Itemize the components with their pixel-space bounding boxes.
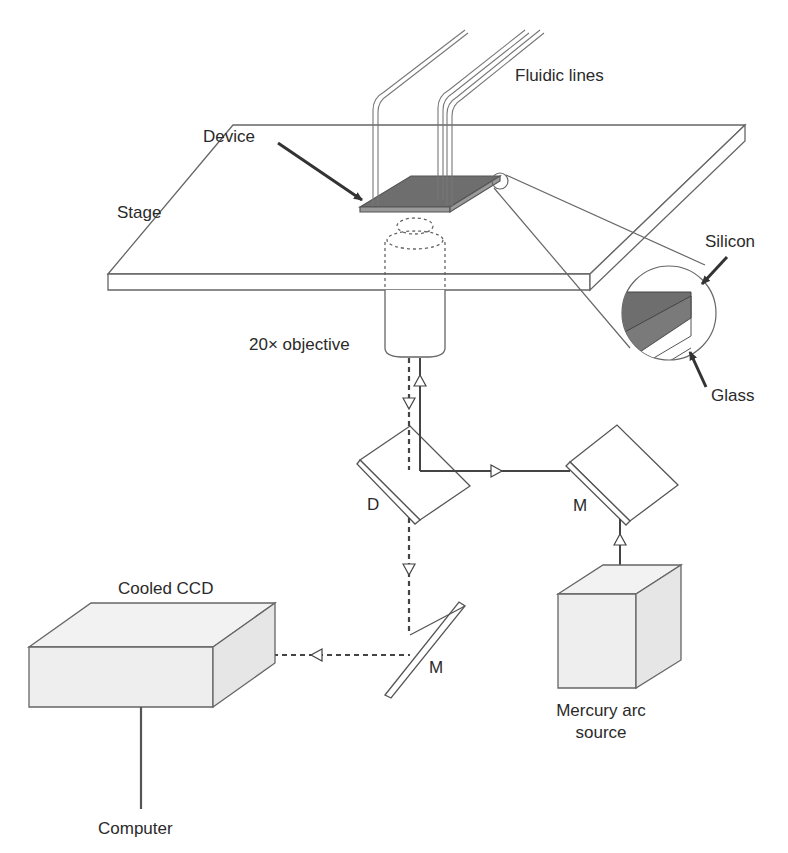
mercury-arc-source — [558, 565, 681, 688]
mirror-bottom-label: M — [429, 659, 443, 676]
dichroic-label: D — [367, 496, 379, 513]
inset-cross-section — [610, 266, 716, 372]
computer-label: Computer — [98, 820, 173, 837]
silicon-label: Silicon — [705, 233, 755, 250]
objective-label: 20× objective — [249, 336, 350, 353]
mirror-right-label: M — [573, 497, 587, 514]
mercury-source-label-line2: source — [575, 724, 626, 741]
objective — [385, 290, 445, 357]
glass-label: Glass — [711, 387, 754, 404]
fluidic-lines-label: Fluidic lines — [515, 67, 604, 84]
optical-setup-diagram — [0, 0, 788, 853]
cooled-ccd-label: Cooled CCD — [118, 580, 213, 597]
glass-pointer-arrow — [690, 352, 706, 387]
stage-label: Stage — [117, 204, 161, 221]
mirror-bottom — [385, 602, 465, 698]
silicon-pointer-arrow — [702, 257, 727, 284]
cooled-ccd — [29, 603, 275, 707]
device-label: Device — [203, 128, 255, 145]
mercury-source-label-line1: Mercury arc — [556, 702, 646, 719]
